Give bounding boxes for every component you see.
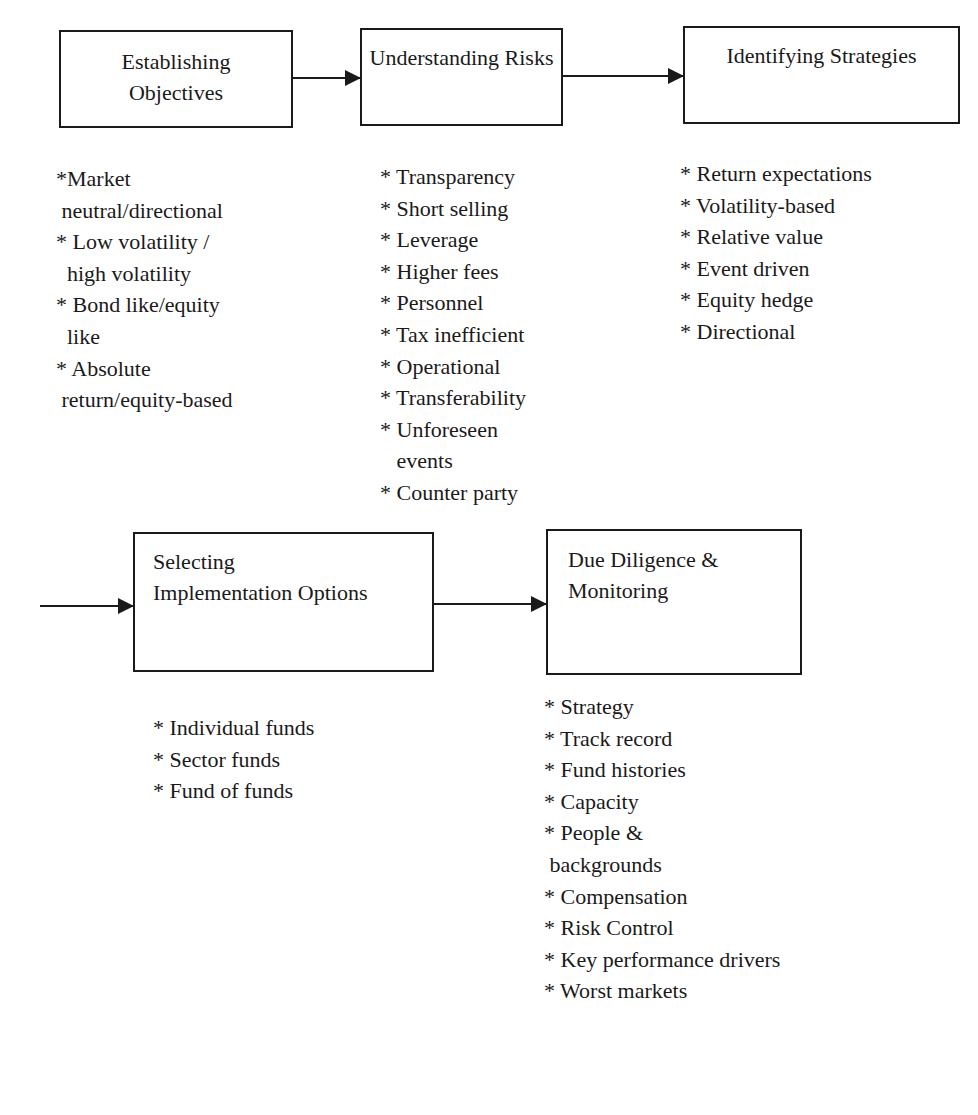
list-item: * Return expectations — [680, 158, 872, 190]
box-selecting-implementation-options: Selecting Implementation Options — [133, 532, 434, 672]
list-item: * Worst markets — [544, 975, 780, 1007]
box-establishing-objectives: Establishing Objectives — [59, 30, 293, 128]
list-item: * Track record — [544, 723, 780, 755]
list-item: * Transferability — [380, 382, 526, 414]
list-item: * Relative value — [680, 221, 872, 253]
box-title-line: Due Diligence & — [568, 544, 800, 575]
list-item: * Tax inefficient — [380, 319, 526, 351]
box-title-line: Understanding Risks — [362, 42, 561, 73]
box-understanding-risks: Understanding Risks — [360, 28, 563, 126]
list-item: neutral/directional — [56, 195, 233, 227]
list-item: * Key performance drivers — [544, 944, 780, 976]
list-item: * Absolute — [56, 353, 233, 385]
list-item: * People & — [544, 817, 780, 849]
list-item: * Equity hedge — [680, 284, 872, 316]
list-item: * Higher fees — [380, 256, 526, 288]
arrow-objectives-to-risks — [293, 77, 360, 79]
list-item: * Compensation — [544, 881, 780, 913]
list-implementation: * Individual funds * Sector funds * Fund… — [153, 712, 314, 807]
box-title-line: Establishing — [61, 46, 291, 77]
list-item: * Operational — [380, 351, 526, 383]
list-item: * Directional — [680, 316, 872, 348]
list-item: * Individual funds — [153, 712, 314, 744]
arrow-strategies-to-implementation — [40, 605, 133, 607]
list-due-diligence: * Strategy * Track record * Fund histori… — [544, 691, 780, 1007]
list-item: *Market — [56, 163, 233, 195]
list-risks: * Transparency * Short selling * Leverag… — [380, 161, 526, 509]
list-item: * Capacity — [544, 786, 780, 818]
arrowhead-icon — [118, 598, 134, 614]
list-item: * Fund histories — [544, 754, 780, 786]
list-item: * Bond like/equity — [56, 289, 233, 321]
list-item: high volatility — [56, 258, 233, 290]
box-title-line: Selecting — [153, 546, 432, 577]
list-item: * Unforeseen — [380, 414, 526, 446]
list-item: * Transparency — [380, 161, 526, 193]
list-item: * Risk Control — [544, 912, 780, 944]
list-objectives: *Market neutral/directional * Low volati… — [56, 163, 233, 416]
box-title-line: Monitoring — [568, 575, 800, 606]
arrowhead-icon — [345, 70, 361, 86]
box-title-line: Identifying Strategies — [685, 40, 958, 71]
list-item: * Sector funds — [153, 744, 314, 776]
arrow-risks-to-strategies — [563, 75, 683, 77]
list-item: * Short selling — [380, 193, 526, 225]
box-title-line: Objectives — [61, 77, 291, 108]
list-item: * Personnel — [380, 287, 526, 319]
box-title-line: Implementation Options — [153, 577, 432, 608]
arrowhead-icon — [531, 596, 547, 612]
list-item: backgrounds — [544, 849, 780, 881]
list-item: * Strategy — [544, 691, 780, 723]
list-item: * Volatility-based — [680, 190, 872, 222]
list-item: * Low volatility / — [56, 226, 233, 258]
list-item: return/equity-based — [56, 384, 233, 416]
box-identifying-strategies: Identifying Strategies — [683, 26, 960, 124]
list-item: * Counter party — [380, 477, 526, 509]
arrow-implementation-to-due-diligence — [434, 603, 546, 605]
list-item: events — [380, 445, 526, 477]
list-item: like — [56, 321, 233, 353]
list-strategies: * Return expectations * Volatility-based… — [680, 158, 872, 348]
list-item: * Event driven — [680, 253, 872, 285]
list-item: * Leverage — [380, 224, 526, 256]
list-item: * Fund of funds — [153, 775, 314, 807]
arrowhead-icon — [668, 68, 684, 84]
box-due-diligence-monitoring: Due Diligence & Monitoring — [546, 529, 802, 675]
